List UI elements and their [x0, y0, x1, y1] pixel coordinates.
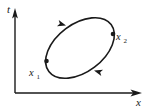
- label-x1: x 1: [28, 67, 41, 81]
- x-axis-label: x: [135, 96, 141, 108]
- point-marker-x2: [111, 32, 116, 37]
- t-axis: [12, 8, 18, 93]
- x-axis: [15, 90, 142, 97]
- label-x1-base: x: [28, 67, 34, 78]
- figure-container: t x x 1 x 2: [0, 0, 153, 109]
- orbit-ellipse: [34, 5, 125, 90]
- label-x2-subscript: 2: [124, 37, 128, 45]
- arrowhead-lower-right-icon: [93, 67, 103, 75]
- t-axis-label: t: [7, 3, 11, 15]
- label-x2: x 2: [115, 31, 128, 45]
- label-x2-base: x: [115, 31, 121, 42]
- orbit-ellipse-group: [34, 5, 125, 90]
- label-x1-subscript: 1: [37, 73, 41, 81]
- arrowhead-upper-left-icon: [57, 20, 67, 28]
- direction-arrowheads: [57, 20, 103, 76]
- point-marker-x1: [44, 59, 49, 64]
- orbit-diagram-svg: t x x 1 x 2: [0, 0, 153, 109]
